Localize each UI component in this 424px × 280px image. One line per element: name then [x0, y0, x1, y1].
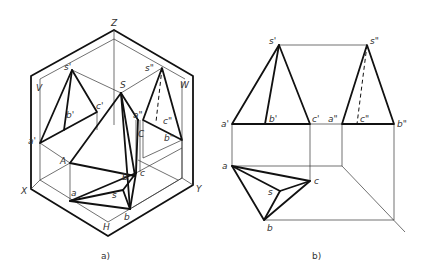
- label-a-prime: a': [221, 119, 229, 129]
- label-B: B: [122, 172, 128, 182]
- label-s: s: [112, 190, 117, 200]
- label-b-dprime: b": [164, 133, 174, 143]
- label-c-prime: c': [312, 114, 319, 124]
- label-a: a: [71, 188, 77, 198]
- label-s: s: [268, 187, 273, 197]
- label-x: X: [20, 186, 28, 196]
- label-c: c: [140, 168, 145, 178]
- label-s-dprime: s": [370, 36, 379, 46]
- caption-a: a): [101, 251, 110, 261]
- label-S: S: [120, 80, 126, 90]
- label-s-prime: s': [269, 36, 276, 46]
- label-b-prime: b': [66, 110, 74, 120]
- figure-a-isometric: Z X Y V W H s' a' b' c' s" a" c" b" S A …: [20, 18, 203, 261]
- label-b-dprime: b": [397, 119, 407, 129]
- label-w: W: [180, 80, 190, 90]
- label-a-dprime: a": [328, 114, 338, 124]
- label-A: A: [59, 156, 66, 166]
- label-c-dprime: c": [360, 114, 369, 124]
- label-a-dprime: a": [133, 110, 143, 120]
- label-y: Y: [196, 184, 203, 194]
- label-c-prime: c': [96, 101, 103, 111]
- label-a-prime: a': [28, 136, 36, 146]
- label-s-prime: s': [64, 62, 71, 72]
- projection-diagram: Z X Y V W H s' a' b' c' s" a" c" b" S A …: [0, 0, 424, 280]
- v-projection: [40, 70, 97, 143]
- label-b: b: [267, 223, 273, 233]
- figure-b-orthographic: s' a' b' c' s" a" c" b" a c s b b): [221, 36, 407, 261]
- inner-frame-bottom: [40, 178, 182, 222]
- label-v: V: [36, 83, 43, 93]
- label-c: c: [314, 176, 319, 186]
- side-view: [342, 45, 394, 124]
- label-s-dprime: s": [145, 63, 154, 73]
- label-z: Z: [110, 18, 118, 28]
- front-view: [232, 45, 310, 124]
- label-h: H: [103, 222, 110, 232]
- label-a: a: [222, 161, 228, 171]
- label-c-dprime: c": [163, 116, 172, 126]
- label-C: C: [138, 129, 145, 139]
- w-projection: [143, 68, 182, 140]
- caption-b: b): [312, 251, 321, 261]
- label-b: b: [124, 212, 130, 222]
- label-b-prime: b': [269, 114, 277, 124]
